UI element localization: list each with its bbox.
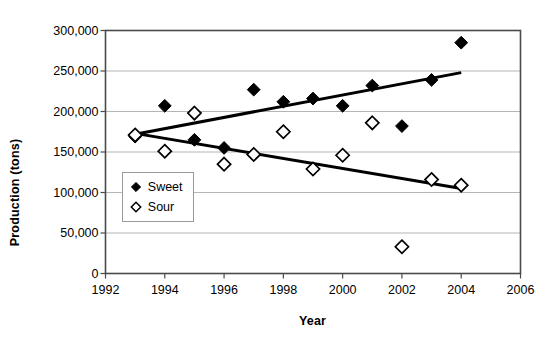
data-point-sour	[336, 149, 349, 162]
legend-label: Sweet	[148, 181, 183, 194]
legend[interactable]: SweetSour	[122, 172, 194, 222]
trendline-sweet	[135, 73, 461, 135]
data-point-sweet	[455, 36, 468, 49]
data-point-sweet	[425, 74, 438, 87]
data-point-sweet	[336, 99, 349, 112]
data-point-sour	[455, 179, 468, 192]
data-point-sour	[217, 158, 230, 171]
data-point-sour	[277, 125, 290, 138]
data-point-sour	[366, 116, 379, 129]
data-point-sour	[247, 148, 260, 161]
filled-diamond-icon	[130, 181, 142, 193]
data-point-sweet	[396, 120, 409, 133]
legend-label: Sour	[148, 201, 174, 214]
open-diamond-icon	[130, 201, 142, 213]
legend-item-sweet[interactable]: Sweet	[130, 177, 183, 197]
legend-item-sour[interactable]: Sour	[130, 197, 183, 217]
data-point-sweet	[158, 99, 171, 112]
plot-area	[0, 0, 558, 343]
data-point-sweet	[307, 92, 320, 105]
trendlines	[135, 73, 461, 189]
production-scatter-chart: Production (tons) Year 050,000100,000150…	[0, 0, 558, 343]
data-point-sweet	[247, 83, 260, 96]
data-point-sour	[395, 240, 408, 253]
data-point-sour	[129, 128, 142, 141]
data-point-sour	[188, 107, 201, 120]
data-point-sour	[158, 145, 171, 158]
